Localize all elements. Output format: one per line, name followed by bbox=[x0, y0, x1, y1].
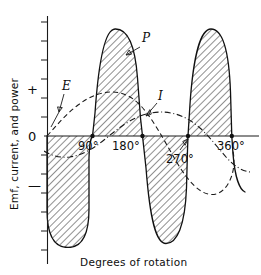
y-label-zero: 0 bbox=[28, 129, 36, 144]
y-axis-sign-labels: + 0 — bbox=[27, 82, 41, 193]
power-area-hatched bbox=[47, 29, 246, 247]
figure-root: 90° 180° 270° 360° + 0 — P E I bbox=[0, 0, 261, 275]
y-label-plus: + bbox=[27, 82, 38, 97]
y-label-minus: — bbox=[28, 178, 41, 193]
series-label-current: I bbox=[157, 89, 163, 103]
x-tick-label-90: 90° bbox=[78, 139, 98, 153]
x-tick-label-360: 360° bbox=[217, 139, 245, 153]
series-label-power: P bbox=[141, 31, 151, 45]
y-axis-title: Emf, current, and power bbox=[8, 78, 20, 210]
chart-svg: 90° 180° 270° 360° + 0 — P E I bbox=[0, 0, 261, 275]
x-tick-label-270: 270° bbox=[166, 152, 194, 166]
x-tick-label-180: 180° bbox=[112, 139, 140, 153]
series-label-emf: E bbox=[61, 79, 71, 93]
x-axis-title: Degrees of rotation bbox=[80, 256, 187, 268]
